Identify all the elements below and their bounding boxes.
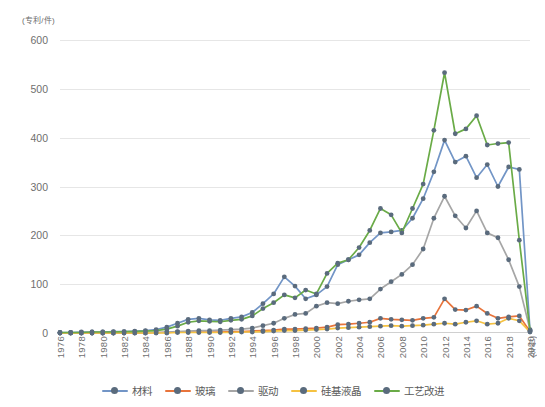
data-point (517, 318, 522, 323)
data-point (132, 329, 137, 334)
data-point (293, 284, 298, 289)
x-axis-tick-label: 1984 (140, 336, 151, 358)
legend-item-硅基液晶[interactable]: 硅基液晶 (291, 383, 361, 398)
x-axis-tick-label: 2018 (503, 336, 514, 358)
x-axis-tick-label: 2000 (311, 336, 322, 358)
data-point (431, 322, 436, 327)
data-point (453, 307, 458, 312)
data-point (474, 209, 479, 214)
legend-item-驱动[interactable]: 驱动 (228, 383, 278, 398)
series-工艺改进 (58, 70, 533, 335)
data-point (175, 330, 180, 335)
y-axis-tick-label: 100 (30, 278, 48, 290)
legend-item-label: 工艺改进 (404, 383, 444, 398)
series-line (60, 140, 530, 332)
data-point (464, 126, 469, 131)
data-point (506, 257, 511, 262)
data-point (378, 324, 383, 329)
data-point (196, 330, 201, 335)
y-axis-tick-label: 400 (30, 132, 48, 144)
data-point (453, 131, 458, 136)
data-point (421, 182, 426, 187)
x-axis-tick-label: 1986 (161, 336, 172, 358)
data-point (474, 318, 479, 323)
data-point (282, 293, 287, 298)
data-point (186, 320, 191, 325)
data-point (389, 230, 394, 235)
data-point (421, 323, 426, 328)
data-point (229, 318, 234, 323)
data-point (335, 326, 340, 331)
x-axis-tick-label: 1980 (97, 336, 108, 358)
data-point (421, 196, 426, 201)
y-axis-tick-label: 200 (30, 229, 48, 241)
legend-marker-icon (228, 386, 254, 396)
data-point (431, 216, 436, 221)
data-point (325, 327, 330, 332)
data-point (314, 304, 319, 309)
plot-area (60, 40, 530, 333)
data-point (410, 206, 415, 211)
data-point (261, 323, 266, 328)
data-point (325, 271, 330, 276)
series-驱动 (58, 194, 533, 336)
data-point (474, 113, 479, 118)
series-硅基液晶 (58, 316, 533, 335)
legend-item-工艺改进[interactable]: 工艺改进 (374, 383, 444, 398)
data-point (389, 212, 394, 217)
y-axis-tick-label: 300 (30, 181, 48, 193)
x-axis-tick-label: 1998 (290, 336, 301, 358)
data-point (303, 296, 308, 301)
x-axis-tick-label: 2010 (418, 336, 429, 358)
legend-marker-icon (291, 386, 317, 396)
legend-item-玻璃[interactable]: 玻璃 (165, 383, 215, 398)
y-axis-tick-label: 0 (42, 327, 48, 339)
data-point (196, 318, 201, 323)
data-point (79, 330, 84, 335)
data-point (485, 230, 490, 235)
data-point (517, 238, 522, 243)
data-point (367, 240, 372, 245)
data-point (399, 230, 404, 235)
data-point (421, 247, 426, 252)
x-axis-tick-label: 1988 (183, 336, 194, 358)
x-axis-tick-label: 1976 (55, 336, 66, 358)
data-point (442, 138, 447, 143)
data-point (175, 324, 180, 329)
y-axis-tick-label: 600 (30, 34, 48, 46)
data-point (367, 228, 372, 233)
data-point (282, 328, 287, 333)
data-point (442, 296, 447, 301)
data-point (496, 235, 501, 240)
data-point (282, 274, 287, 279)
data-point (218, 330, 223, 335)
data-point (399, 317, 404, 322)
data-point (325, 300, 330, 305)
data-point (378, 316, 383, 321)
data-point (229, 330, 234, 335)
y-axis-tick-label: 500 (30, 83, 48, 95)
data-point (357, 252, 362, 257)
data-point (496, 141, 501, 146)
x-axis-tick-label: 2016 (482, 336, 493, 358)
y-axis-tick-labels: 0100200300400500600 (0, 0, 56, 407)
data-point (378, 230, 383, 235)
data-point (431, 128, 436, 133)
data-point (122, 329, 127, 334)
data-point (453, 322, 458, 327)
x-axis-tick-labels: 1976197819801982198419861988199019921994… (60, 336, 530, 372)
data-point (442, 321, 447, 326)
data-point (367, 296, 372, 301)
x-axis-tick-label: 2002 (332, 336, 343, 358)
data-point (293, 328, 298, 333)
data-point (303, 328, 308, 333)
x-axis-tick-label: 2006 (375, 336, 386, 358)
data-point (303, 311, 308, 316)
legend-item-材料[interactable]: 材料 (102, 383, 152, 398)
data-point (346, 325, 351, 330)
data-point (442, 194, 447, 199)
data-point (346, 257, 351, 262)
data-point (111, 330, 116, 335)
data-point (164, 327, 169, 332)
data-point (271, 321, 276, 326)
